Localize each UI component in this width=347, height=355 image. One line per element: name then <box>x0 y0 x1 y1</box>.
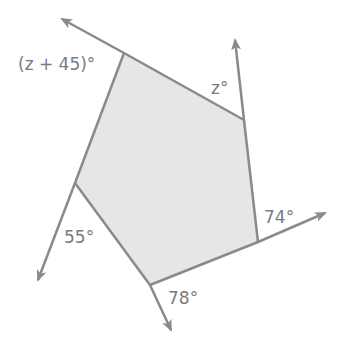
ray-from-a <box>62 19 124 53</box>
angle-label-a: (z + 45)° <box>18 54 95 74</box>
pentagon-diagram: (z + 45)° z° 74° 78° 55° <box>0 0 347 355</box>
angle-label-c: 74° <box>264 207 294 227</box>
angle-label-e: 55° <box>64 227 94 247</box>
angle-label-d: 78° <box>168 288 198 308</box>
angle-label-b: z° <box>211 78 228 98</box>
ray-from-b <box>235 40 244 120</box>
pentagon-shape <box>75 53 258 285</box>
